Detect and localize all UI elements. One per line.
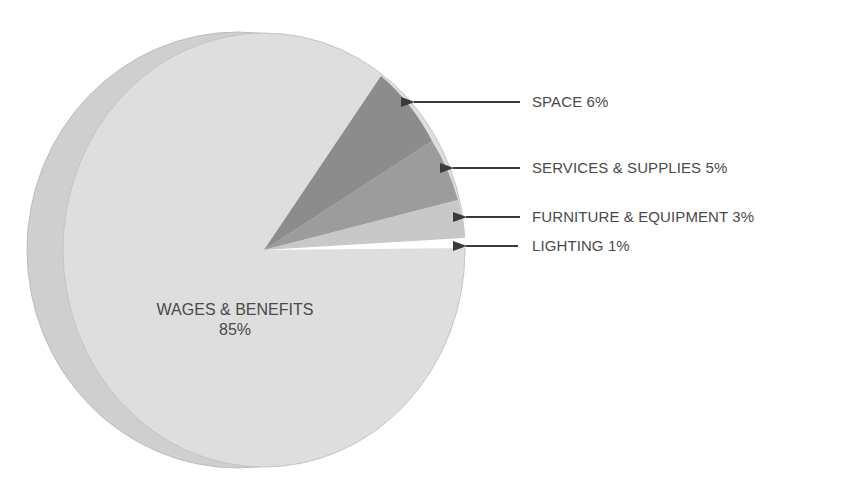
space-label: SPACE 6%: [532, 93, 608, 110]
wages-benefits-name: WAGES & BENEFITS: [120, 300, 350, 320]
furniture-equipment-label: FURNITURE & EQUIPMENT 3%: [532, 208, 754, 225]
wages-benefits-label: WAGES & BENEFITS 85%: [120, 300, 350, 340]
wages-benefits-percent: 85%: [120, 320, 350, 340]
lighting-label: LIGHTING 1%: [532, 237, 630, 254]
services-supplies-label: SERVICES & SUPPLIES 5%: [532, 159, 727, 176]
pie-chart: [0, 0, 850, 477]
